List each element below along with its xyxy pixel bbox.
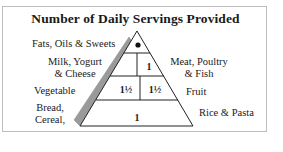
label-rice-pasta: Rice & Pasta (199, 107, 254, 119)
fruit-value: 1½ (140, 84, 170, 96)
label-milk-yogurt-cheese: Milk, Yogurt & Cheese (40, 56, 110, 80)
bread-value: 1 (125, 112, 149, 124)
label-bread-line2: Cereal, (30, 114, 70, 126)
meat-value: 1 (137, 61, 161, 73)
label-fruit: Fruit (186, 86, 206, 98)
label-meat-line1: Meat, Poultry (164, 56, 234, 68)
label-meat-line2: & Fish (164, 68, 234, 80)
label-meat-poultry-fish: Meat, Poultry & Fish (164, 56, 234, 80)
vegetable-value: 1½ (111, 84, 141, 96)
fats-dot-icon (135, 42, 140, 47)
label-vegetable: Vegetable (34, 85, 75, 97)
label-fats-oils-sweets: Fats, Oils & Sweets (32, 38, 115, 50)
label-bread-cereal: Bread, Cereal, (30, 102, 70, 126)
label-milk-line1: Milk, Yogurt (40, 56, 110, 68)
label-milk-line2: & Cheese (40, 68, 110, 80)
label-bread-line1: Bread, (30, 102, 70, 114)
